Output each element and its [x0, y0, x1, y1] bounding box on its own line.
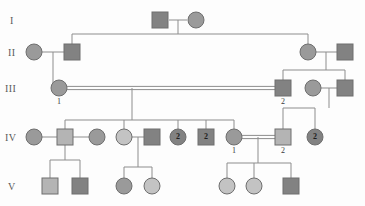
- female-symbol-IV-1[interactable]: [26, 129, 42, 145]
- generation-label-gen-2: II: [8, 47, 15, 58]
- female-symbol-V-4[interactable]: [144, 178, 160, 194]
- generation-labels: IIIIIIIVV: [5, 15, 17, 192]
- female-symbol-I-2[interactable]: [188, 12, 204, 28]
- male-symbol-V-1[interactable]: [42, 178, 58, 194]
- individual-II-2[interactable]: [64, 44, 80, 60]
- female-symbol-III-1[interactable]: [51, 80, 67, 96]
- generation-label-gen-5: V: [8, 181, 16, 192]
- male-symbol-V-2[interactable]: [72, 178, 88, 194]
- pedigree-canvas: 1222122 IIIIIIIVV: [0, 0, 365, 206]
- individual-V-5[interactable]: [219, 178, 235, 194]
- individual-IV-8[interactable]: 1: [226, 129, 242, 155]
- individual-II-4[interactable]: [337, 44, 353, 60]
- male-symbol-III-4[interactable]: [337, 80, 353, 96]
- individual-II-1[interactable]: [26, 44, 42, 60]
- individual-V-1[interactable]: [42, 178, 58, 194]
- sibling-count-IV-6: 2: [176, 132, 180, 141]
- sibling-count-IV-10: 2: [313, 132, 317, 141]
- male-symbol-III-2[interactable]: [275, 80, 291, 96]
- individual-II-3[interactable]: [300, 44, 316, 60]
- individual-III-2[interactable]: 2: [275, 80, 291, 106]
- sibling-count-IV-7: 2: [204, 132, 208, 141]
- individual-IV-10[interactable]: 2: [307, 129, 323, 145]
- male-symbol-V-7[interactable]: [283, 178, 299, 194]
- individual-IV-4[interactable]: [116, 129, 132, 145]
- individual-V-6[interactable]: [246, 178, 262, 194]
- generation-label-gen-4: IV: [5, 132, 17, 143]
- individual-I-2[interactable]: [188, 12, 204, 28]
- individual-V-7[interactable]: [283, 178, 299, 194]
- individual-id-IV-8: 1: [232, 146, 236, 155]
- female-symbol-IV-3[interactable]: [89, 129, 105, 145]
- male-symbol-IV-2[interactable]: [57, 129, 73, 145]
- connection-lines: [42, 20, 345, 178]
- individual-IV-3[interactable]: [89, 129, 105, 145]
- individual-id-III-2: 2: [281, 97, 285, 106]
- female-symbol-V-5[interactable]: [219, 178, 235, 194]
- female-symbol-III-3[interactable]: [305, 80, 321, 96]
- female-symbol-II-1[interactable]: [26, 44, 42, 60]
- female-symbol-II-3[interactable]: [300, 44, 316, 60]
- individual-id-IV-9: 2: [281, 146, 285, 155]
- female-symbol-V-6[interactable]: [246, 178, 262, 194]
- individual-IV-7[interactable]: 2: [198, 129, 214, 145]
- individual-V-2[interactable]: [72, 178, 88, 194]
- individual-IV-2[interactable]: [57, 129, 73, 145]
- pedigree-chart: 1222122 IIIIIIIVV: [0, 0, 365, 206]
- female-symbol-IV-4[interactable]: [116, 129, 132, 145]
- male-symbol-IV-5[interactable]: [144, 129, 160, 145]
- female-symbol-IV-8[interactable]: [226, 129, 242, 145]
- male-symbol-II-4[interactable]: [337, 44, 353, 60]
- individual-III-4[interactable]: [337, 80, 353, 96]
- individual-id-III-1: 1: [57, 97, 61, 106]
- individual-IV-5[interactable]: [144, 129, 160, 145]
- individual-III-1[interactable]: 1: [51, 80, 67, 106]
- male-symbol-II-2[interactable]: [64, 44, 80, 60]
- male-symbol-IV-9[interactable]: [275, 129, 291, 145]
- individual-symbols: 1222122: [26, 12, 353, 194]
- individual-IV-9[interactable]: 2: [275, 129, 291, 155]
- female-symbol-V-3[interactable]: [116, 178, 132, 194]
- individual-IV-1[interactable]: [26, 129, 42, 145]
- generation-label-gen-3: III: [5, 83, 16, 94]
- individual-V-4[interactable]: [144, 178, 160, 194]
- individual-I-1[interactable]: [152, 12, 168, 28]
- male-symbol-I-1[interactable]: [152, 12, 168, 28]
- generation-label-gen-1: I: [10, 15, 14, 26]
- individual-V-3[interactable]: [116, 178, 132, 194]
- individual-IV-6[interactable]: 2: [170, 129, 186, 145]
- individual-III-3[interactable]: [305, 80, 321, 96]
